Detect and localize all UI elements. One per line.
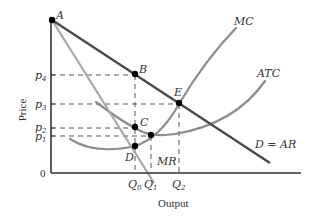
y-axis-title: Price <box>16 99 28 122</box>
demand-curve <box>52 20 270 163</box>
origin-label: 0 <box>40 167 46 179</box>
point-c <box>132 124 138 130</box>
point-b <box>132 71 138 77</box>
label-mc: MC <box>233 15 254 28</box>
mr-curve <box>52 20 154 183</box>
point-a <box>49 17 55 23</box>
label-a: A <box>55 9 64 22</box>
label-mr: MR <box>156 155 177 168</box>
tick-label-q1: Q1 <box>144 178 158 192</box>
point-d <box>132 143 138 149</box>
x-axis-title: Output <box>158 197 189 209</box>
tick-label-p3: p3 <box>35 98 47 112</box>
tick-label-q2: Q2 <box>172 178 186 192</box>
label-e: E <box>173 86 182 99</box>
label-atc: ATC <box>256 67 281 80</box>
label-b: B <box>138 63 147 76</box>
point-atc-min <box>148 132 154 138</box>
label-c: C <box>140 116 149 129</box>
point-e <box>176 100 182 106</box>
tick-label-p4: p4 <box>35 69 47 83</box>
monopoly-cost-revenue-diagram: A B E C D MC ATC D = AR MR p4 p3 p2 p1 0… <box>0 0 312 220</box>
label-demand: D = AR <box>254 138 296 151</box>
label-d: D <box>124 151 134 164</box>
tick-label-q0: Q0 <box>128 178 142 192</box>
